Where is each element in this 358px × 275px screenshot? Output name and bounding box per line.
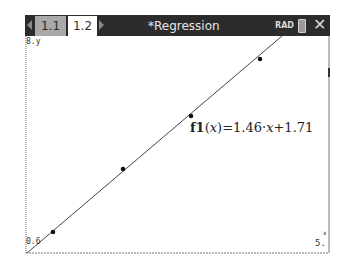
document-title: *Regression — [148, 16, 220, 36]
x-axis-name: x — [323, 229, 327, 236]
tab-1-1[interactable]: 1.1 — [35, 16, 66, 36]
battery-icon — [298, 19, 306, 33]
regression-equation-label[interactable]: f1(x)=1.46·x+1.71 — [190, 120, 313, 135]
function-variable: x — [210, 120, 217, 135]
y-min-label: 0.6 — [26, 237, 40, 246]
close-icon[interactable]: ✕ — [313, 15, 326, 35]
next-page-arrow-icon[interactable] — [99, 20, 104, 30]
graph-area[interactable] — [25, 36, 330, 254]
y-max-label: 8.y — [26, 37, 40, 46]
previous-page-arrow-icon[interactable] — [27, 20, 32, 30]
regression-line[interactable] — [27, 36, 282, 253]
function-name: f1 — [190, 120, 205, 135]
x-max-label: 5. — [315, 238, 326, 248]
data-point[interactable] — [189, 114, 194, 119]
equation-rhs-b: +1.71 — [273, 120, 313, 135]
scrollbar[interactable] — [328, 68, 330, 77]
tab-1-2[interactable]: 1.2 — [68, 16, 97, 36]
data-point[interactable] — [121, 167, 126, 172]
angle-mode-indicator: RAD — [275, 16, 294, 36]
data-point[interactable] — [258, 57, 263, 62]
data-point[interactable] — [51, 230, 56, 235]
equation-rhs-a: =1.46· — [222, 120, 266, 135]
